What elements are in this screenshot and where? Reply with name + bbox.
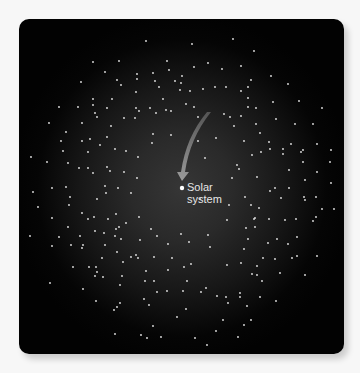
star-dot [183, 266, 185, 268]
star-dot [236, 164, 238, 166]
star-dot [153, 256, 155, 258]
star-dot [205, 287, 207, 289]
stars-group [29, 38, 335, 346]
star-dot [181, 75, 183, 77]
label-line-1: Solar [187, 181, 222, 193]
star-dot [304, 274, 306, 276]
star-dot [137, 156, 139, 158]
star-dot [122, 261, 124, 263]
star-dot [190, 263, 192, 265]
star-dot [182, 290, 184, 292]
star-dot [216, 295, 218, 297]
star-dot [296, 255, 298, 257]
star-dot [316, 255, 318, 257]
star-dot [288, 187, 290, 189]
star-dot [239, 292, 241, 294]
star-dot [204, 157, 206, 159]
star-dot [116, 306, 118, 308]
star-dot [96, 116, 98, 118]
star-dot [274, 187, 276, 189]
star-dot [330, 149, 332, 151]
star-dot [80, 81, 82, 83]
star-dot [70, 244, 72, 246]
solar-system-marker [180, 186, 184, 190]
star-dot [99, 144, 101, 146]
star-dot [104, 185, 106, 187]
star-dot [155, 112, 157, 114]
star-dot [138, 216, 140, 218]
star-dot [130, 256, 132, 258]
star-dot [268, 218, 270, 220]
star-dot [81, 212, 83, 214]
star-dot [287, 243, 289, 245]
star-dot [261, 280, 263, 282]
star-dot [295, 218, 297, 220]
star-dot [302, 149, 304, 151]
star-dot [125, 150, 127, 152]
star-dot [156, 235, 158, 237]
star-dot [102, 276, 104, 278]
star-dot [123, 117, 125, 119]
star-dot [228, 204, 230, 206]
star-dot [139, 239, 141, 241]
star-dot [240, 262, 242, 264]
star-dot [95, 266, 97, 268]
star-dot [82, 288, 84, 290]
star-dot [135, 91, 137, 93]
star-dot [81, 140, 83, 142]
star-dot [114, 333, 116, 335]
star-dot [225, 296, 227, 298]
star-dot [143, 298, 145, 300]
star-dot [215, 137, 217, 139]
star-dot [152, 325, 154, 327]
star-dot [87, 218, 89, 220]
star-dot [104, 71, 106, 73]
star-dot [62, 150, 64, 152]
star-dot [193, 106, 195, 108]
star-dot [256, 176, 258, 178]
star-dot [174, 80, 176, 82]
star-dot [120, 84, 122, 86]
star-dot [30, 156, 32, 158]
star-dot [69, 196, 71, 198]
star-dot [72, 266, 74, 268]
star-dot [134, 117, 136, 119]
star-dot [106, 107, 108, 109]
star-dot [243, 248, 245, 250]
motion-arrow-icon [177, 112, 211, 181]
star-dot [154, 80, 156, 82]
star-dot [333, 208, 335, 210]
star-dot [296, 236, 298, 238]
star-dot [118, 60, 120, 62]
star-dot [239, 296, 241, 298]
star-dot [87, 167, 89, 169]
star-dot [96, 271, 98, 273]
star-dot [180, 233, 182, 235]
star-dot [88, 266, 90, 268]
star-dot [316, 171, 318, 173]
star-dot [209, 246, 211, 248]
star-dot [193, 66, 195, 68]
star-dot [92, 104, 94, 106]
star-dot [165, 109, 167, 111]
star-dot [254, 226, 256, 228]
star-dot [120, 238, 122, 240]
star-dot [168, 69, 170, 71]
star-dot [170, 110, 172, 112]
star-dot [258, 207, 260, 209]
star-dot [82, 244, 84, 246]
star-dot [114, 235, 116, 237]
star-dot [162, 98, 164, 100]
star-dot [48, 122, 50, 124]
star-dot [232, 38, 234, 40]
star-dot [95, 300, 97, 302]
star-dot [247, 106, 249, 108]
star-dot [227, 302, 229, 304]
star-dot [303, 196, 305, 198]
star-dot [250, 79, 252, 81]
star-dot [137, 257, 139, 259]
star-dot [179, 89, 181, 91]
star-dot [51, 245, 53, 247]
star-dot [243, 324, 245, 326]
star-dot [67, 162, 69, 164]
